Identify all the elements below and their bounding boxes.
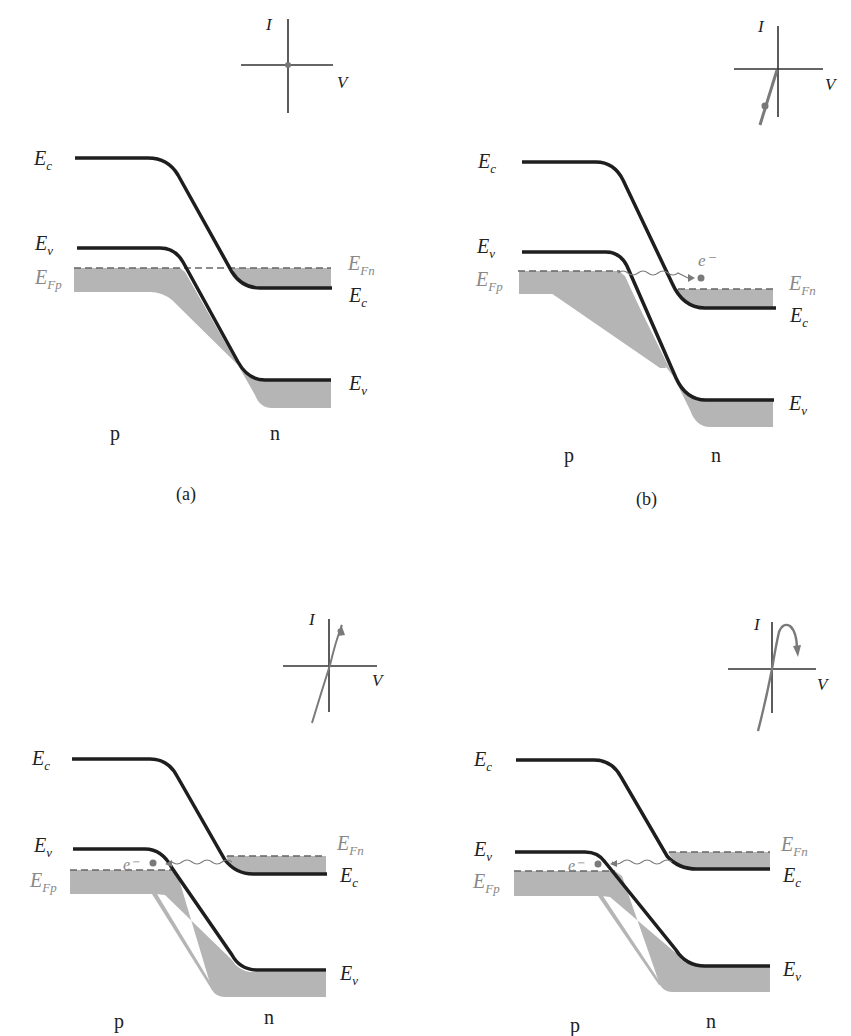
axis-label-I: I — [757, 17, 765, 36]
arrowhead-icon — [688, 274, 695, 282]
label-Ec-right: Ec — [339, 864, 358, 890]
electron-dot-b — [698, 275, 705, 282]
region-n: n — [711, 444, 721, 466]
arrowhead-icon — [610, 860, 617, 867]
region-p: p — [570, 1014, 580, 1036]
label-Ec-left: Ec — [31, 747, 50, 773]
panel-a: I V Ec Ev EFp EFn Ec Ev p n (a) — [33, 15, 375, 505]
panel-c: I V e⁻ Ec Ev EFp EFn Ec Ev p n — [29, 610, 385, 1033]
operating-point-b — [762, 103, 769, 110]
operating-point-c — [338, 629, 343, 634]
electron-dot-c — [150, 860, 157, 867]
label-Ev-left: Ev — [473, 838, 492, 864]
tunneling-arrow-c — [170, 860, 232, 864]
label-EFp: EFp — [29, 869, 57, 895]
label-Ev-left: Ev — [476, 235, 495, 261]
panel-b: I V e⁻ Ec Ev EFp EFn Ec Ev p n (b) — [475, 17, 838, 510]
iv-curve-b — [760, 70, 777, 125]
label-Ev-right: Ev — [339, 962, 358, 988]
caption-a: (a) — [176, 484, 196, 505]
iv-inset-b — [734, 26, 823, 117]
label-Ec-right: Ec — [782, 864, 801, 890]
region-p: p — [564, 444, 574, 467]
label-Ec-left: Ec — [473, 748, 492, 774]
axis-label-V: V — [817, 675, 830, 694]
label-Ev-left: Ev — [34, 232, 53, 258]
operating-point-a — [285, 62, 291, 68]
label-Ev-right: Ev — [782, 958, 801, 984]
panel-d: I V e⁻ Ec Ev EFp EFn Ec Ev p n — [472, 615, 830, 1036]
region-n: n — [706, 1010, 716, 1032]
filled-states-p-d — [514, 871, 770, 992]
label-EFp: EFp — [475, 268, 503, 294]
electron-label-c: e⁻ — [123, 856, 140, 873]
label-Ev-left: Ev — [33, 834, 52, 860]
filled-states-p-c — [70, 870, 326, 997]
electron-label-d: e⁻ — [568, 857, 585, 874]
axis-label-V: V — [825, 75, 838, 94]
caption-b: (b) — [636, 489, 657, 510]
label-Ec-left: Ec — [33, 147, 52, 173]
arrowhead-icon — [793, 645, 801, 657]
electron-dot-d — [595, 861, 602, 868]
region-n: n — [270, 422, 280, 444]
label-EFn: EFn — [347, 252, 375, 278]
electron-label-b: e⁻ — [698, 251, 717, 270]
region-p: p — [114, 1010, 124, 1033]
tunneling-arrow-d — [612, 860, 672, 864]
label-EFn: EFn — [788, 272, 816, 298]
tunnel-diode-figure: I V Ec Ev EFp EFn Ec Ev p n (a) I V — [0, 0, 851, 1036]
label-EFp: EFp — [472, 870, 500, 896]
axis-label-I: I — [265, 15, 273, 34]
label-Ec-right: Ec — [789, 304, 808, 330]
axis-label-I: I — [753, 615, 761, 634]
label-Ec-right: Ec — [348, 284, 367, 310]
axis-label-V: V — [337, 73, 350, 92]
axis-label-V: V — [372, 671, 385, 690]
label-Ev-right: Ev — [348, 372, 367, 398]
region-p: p — [110, 422, 120, 445]
label-Ev-right: Ev — [788, 392, 807, 418]
iv-curve-d — [758, 625, 797, 731]
iv-curve-c — [312, 625, 342, 723]
region-n: n — [264, 1006, 274, 1028]
label-EFn: EFn — [780, 833, 808, 859]
label-EFp: EFp — [34, 266, 62, 292]
label-Ec-left: Ec — [477, 150, 496, 176]
label-EFn: EFn — [336, 832, 364, 858]
axis-label-I: I — [308, 610, 316, 629]
